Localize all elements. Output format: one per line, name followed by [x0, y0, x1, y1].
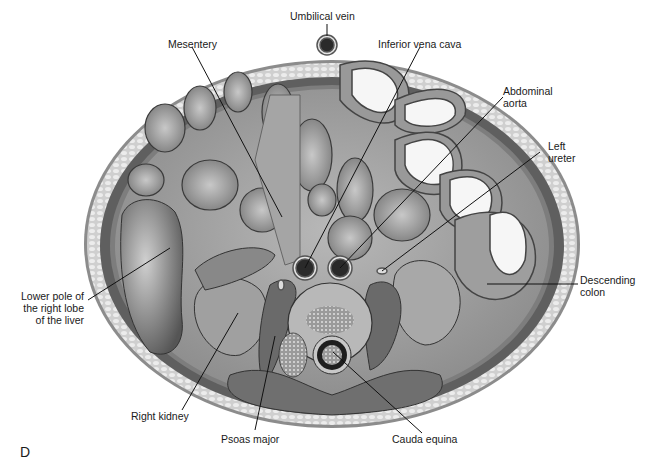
label-abdominal-aorta: Abdominal aorta: [503, 85, 553, 109]
label-cauda-equina: Cauda equina: [392, 433, 457, 445]
label-mesentery: Mesentery: [168, 38, 217, 50]
cross-section-illustration: [0, 0, 653, 462]
label-psoas-major: Psoas major: [221, 433, 279, 445]
anatomy-figure: Umbilical vein Mesentery Inferior vena c…: [0, 0, 653, 462]
panel-letter: D: [20, 444, 30, 460]
label-descending-colon: Descending colon: [580, 274, 635, 298]
label-umbilical-vein: Umbilical vein: [290, 10, 355, 22]
label-liver: Lower pole of the right lobe of the live…: [10, 290, 84, 326]
label-right-kidney: Right kidney: [131, 410, 189, 422]
label-inferior-vena-cava: Inferior vena cava: [378, 38, 461, 50]
label-left-ureter: Left ureter: [548, 140, 575, 164]
